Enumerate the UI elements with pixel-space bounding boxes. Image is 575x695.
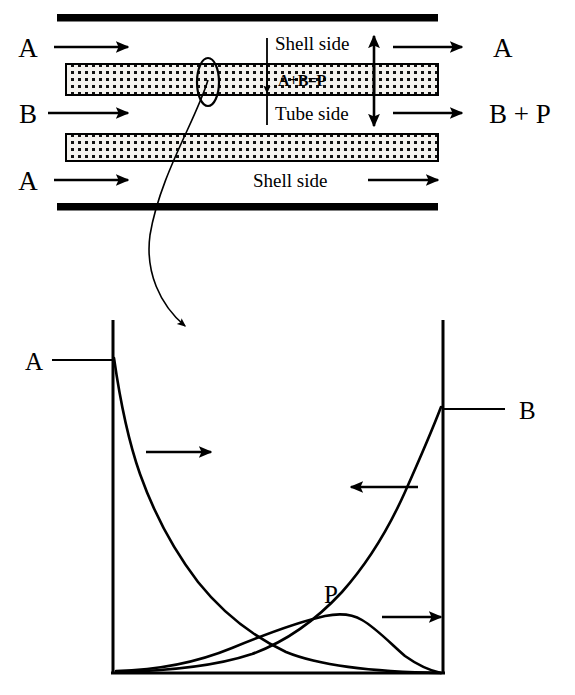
reactor-schematic: A B A A B + P Shell side Tube side Shell…	[18, 14, 551, 326]
reaction-equation-label: A+B=P	[278, 72, 326, 89]
membrane-lower	[66, 134, 438, 161]
concentration-profile-plot: A B P	[25, 320, 536, 673]
curve-p	[116, 614, 441, 673]
curve-a	[114, 358, 441, 673]
reactor-outlet-label-bp: B + P	[489, 99, 551, 129]
reactor-bottom-wall	[57, 203, 438, 211]
curve-b	[116, 407, 441, 672]
reactor-inlet-label-a-lower: A	[18, 166, 38, 196]
profile-label-b: B	[519, 397, 536, 424]
profile-label-p: P	[324, 581, 338, 608]
membrane-upper	[66, 64, 438, 95]
profile-label-a: A	[25, 348, 43, 375]
tube-side-label: Tube side	[275, 103, 349, 124]
figure-canvas: A B A A B + P Shell side Tube side Shell…	[0, 0, 575, 695]
reactor-inlet-label-b: B	[19, 99, 37, 129]
figure-root: A B A A B + P Shell side Tube side Shell…	[0, 0, 575, 695]
reactor-top-wall	[57, 14, 438, 22]
reactor-outlet-label-a: A	[493, 33, 513, 63]
reactor-inlet-label-a-upper: A	[18, 33, 38, 63]
shell-side-label-lower: Shell side	[253, 170, 327, 191]
shell-side-label-upper: Shell side	[275, 33, 349, 54]
